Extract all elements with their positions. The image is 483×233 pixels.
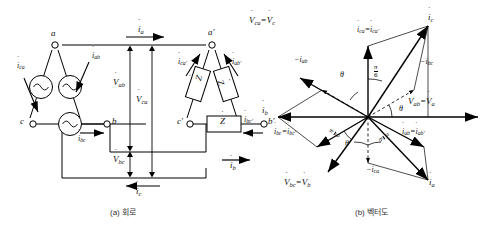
caption-circuit: (a) 회로 (110, 206, 136, 217)
phasor-label-V-ab: Vab=Va (408, 97, 435, 107)
node-a-prime (209, 42, 215, 48)
arrow-i-ab (76, 62, 89, 92)
current-label-i-b: ib (230, 161, 236, 171)
node-c (30, 121, 36, 127)
current-label-i-c: ic (136, 187, 141, 197)
caption-phasor: (b) 벡터도 (355, 206, 388, 217)
phasor-label-i-bc: ibc=ibc′ (274, 128, 296, 137)
current-label-i-ca: ica (17, 62, 25, 71)
node-b (104, 121, 110, 127)
phasor-label-neg-i-ca: −ica (366, 166, 379, 175)
phasor-label-V-ca: Vca=Vc (249, 16, 275, 26)
current-label-i-ca-prime: ica′ (178, 58, 187, 67)
phasor-label-neg-i-bc: −ibc (420, 58, 433, 67)
angle-label-pi-over-6-top: π 6 (374, 64, 378, 79)
node-c-prime (187, 121, 193, 127)
voltage-label-V-bc: Vbc (113, 155, 125, 165)
impedance-label-bc: Z (220, 117, 225, 126)
angle-label-theta-lower-left: θ (345, 140, 349, 148)
phasor-label-i-a: ia (429, 178, 435, 188)
phasor-label-neg-i-ab: −iab (294, 56, 307, 65)
voltage-label-V-ca: Vca (136, 95, 148, 105)
current-label-i-a: ia (138, 25, 144, 35)
node-a (52, 42, 58, 48)
voltage-V-ab (127, 46, 133, 152)
node-label-b: b (112, 117, 117, 126)
voltage-label-V-ab: Vab (113, 78, 125, 88)
node-label-a-prime: a′ (208, 28, 214, 37)
current-label-i-bc: ibc (78, 135, 86, 144)
phasor-label-i-c: ic (428, 13, 433, 23)
current-label-i-bc-prime: ibc′ (244, 116, 253, 125)
node-label-a: a (51, 29, 56, 38)
phasor-label-i-b: ib (262, 106, 268, 116)
angle-label-theta-right: θ (399, 105, 403, 113)
ac-source-ca (30, 76, 53, 99)
angle-label-theta-upper-left: θ (340, 71, 344, 79)
voltage-V-ca (149, 46, 155, 178)
phasor-label-i-ca: ica=ica′ (357, 26, 379, 35)
phasor-group (278, 26, 478, 180)
phasor-label-i-ab: iab=iab′ (402, 128, 425, 137)
voltage-V-bc (127, 152, 133, 178)
figure-canvas (0, 0, 483, 233)
node-label-c: c (20, 117, 24, 126)
figure-root: a c b a′ c′ b′ ica iab ibc ica′ iab′ ibc… (0, 0, 483, 233)
node-b-prime (261, 121, 267, 127)
phasor-label-V-bc: Vbc=Vb (284, 178, 310, 188)
current-label-i-ab-prime: iab′ (232, 58, 241, 67)
node-label-c-prime: c′ (177, 117, 183, 126)
current-label-i-ab: iab (92, 52, 100, 61)
